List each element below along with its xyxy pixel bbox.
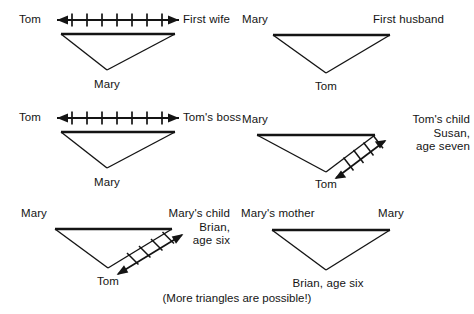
panel-5-triangle: [55, 229, 172, 268]
panel-1-arrowhead-left: [57, 16, 68, 25]
panel-3-apex-label: Mary: [77, 176, 137, 190]
panel-1-left-edge: [61, 34, 107, 70]
panel-6-right-edge: [326, 230, 390, 270]
panel-3-right-edge: [107, 132, 175, 168]
panel-1-top-left-label: Tom: [19, 13, 41, 27]
panel-1-apex-label: Mary: [77, 78, 137, 92]
panel-3-left-edge: [61, 132, 107, 168]
panel-5-left-edge: [55, 229, 108, 268]
panel-2-triangle: [273, 35, 390, 73]
figure-caption: (More triangles are possible!): [137, 292, 337, 304]
panel-1-arrowhead-right: [168, 16, 179, 25]
panel-3-arrowhead-left: [57, 114, 68, 123]
panel-4-top-right-label: Tom's child Susan, age seven: [378, 113, 470, 154]
panel-6-top-right-label: Mary: [378, 207, 404, 221]
panel-5-apex-label: Tom: [78, 275, 138, 289]
panel-3-conflict-arrow: [57, 112, 179, 125]
panel-5-top-left-label: Mary: [21, 207, 47, 221]
panel-3-arrowhead-right: [168, 114, 179, 123]
panel-1-conflict-arrow: [57, 14, 179, 27]
panel-6-left-edge: [272, 230, 326, 270]
panel-4-left-edge: [257, 135, 326, 172]
panel-4-top-left-label: Mary: [242, 113, 268, 127]
panel-5-top-right-label: Mary's child Brian, age six: [160, 207, 230, 248]
triangle-diagram-figure: Tom First wife Mary Mary First husband T…: [0, 0, 474, 314]
panel-3-triangle: [61, 132, 175, 168]
panel-3-top-left-label: Tom: [19, 111, 41, 125]
panel-2-left-edge: [273, 35, 326, 73]
panel-2-top-right-label: First husband: [373, 13, 444, 27]
panel-4-apex-label: Tom: [296, 178, 356, 192]
panel-4-triangle: [257, 135, 375, 172]
panel-5-arrowhead-lower: [117, 265, 129, 275]
panel-6-triangle: [272, 230, 390, 270]
panel-6-apex-label: Brian, age six: [288, 277, 368, 291]
panel-2-apex-label: Tom: [296, 80, 356, 94]
panel-6-top-left-label: Mary's mother: [241, 207, 315, 221]
panel-2-top-left-label: Mary: [242, 13, 268, 27]
diagram-canvas: [0, 0, 474, 314]
panel-1-triangle: [61, 34, 175, 70]
panel-1-right-edge: [107, 34, 175, 70]
panel-2-right-edge: [326, 35, 390, 73]
panel-3-top-right-label: Tom's boss: [183, 111, 241, 125]
panel-1-top-right-label: First wife: [183, 13, 230, 27]
